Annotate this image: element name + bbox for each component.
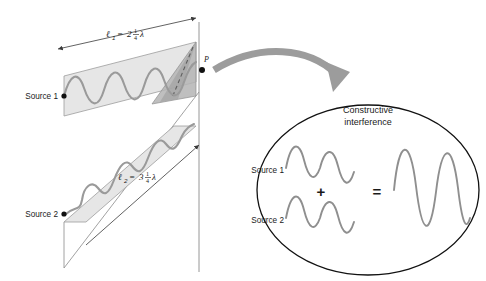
callout-source2-label: Source 2 [251,216,284,225]
path1-subscript: 1 [112,34,115,41]
point-p-marker [199,67,205,73]
callout-outline [257,105,479,275]
path1-unit: λ [139,29,144,39]
path2-equals: = [129,172,135,182]
path1-numerator: 1 [134,28,137,34]
interference-diagram: Source 1 Source 2 P ℓ 1 = 2 1 4 λ [0,0,486,281]
path1-whole: 2 [127,29,132,39]
source1-label: Source 1 [25,92,58,101]
path2-whole: 3 [138,172,144,182]
callout-arrow [214,52,350,92]
path2-unit: λ [151,172,156,182]
point-p-label: P [203,55,209,64]
callout-source1-label: Source 1 [251,166,284,175]
path1-symbol: ℓ [106,29,110,39]
callout-arrow-shaft [214,52,336,74]
callout-title-line2: interference [344,117,392,127]
path2-numerator: 1 [146,171,149,177]
path2-denominator: 4 [146,178,149,184]
path1-label-group: ℓ 1 = 2 1 4 λ [106,28,144,41]
left-panel-geometry: Source 1 Source 2 P ℓ 1 = 2 1 4 λ [25,18,209,272]
plus-symbol: + [317,183,326,200]
source2-label: Source 2 [25,210,58,219]
path1-equals: = [117,29,123,39]
callout-panel: Constructive interference Source 1 + Sou… [251,105,479,275]
callout-title-line1: Constructive [343,105,393,115]
source2-marker [61,211,66,216]
equals-symbol: = [373,183,382,200]
source1-marker [61,93,66,98]
path2-symbol: ℓ [118,172,122,182]
path1-denominator: 4 [134,35,137,41]
callout-arrow-head [326,62,350,92]
path2-subscript: 2 [123,177,128,184]
figure-root: Source 1 Source 2 P ℓ 1 = 2 1 4 λ [0,0,486,281]
